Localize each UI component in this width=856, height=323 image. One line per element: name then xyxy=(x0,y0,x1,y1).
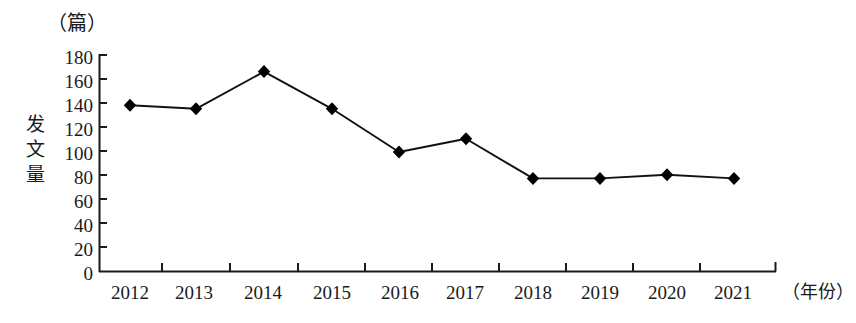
chart-plot-area xyxy=(0,0,856,323)
data-point-2017[interactable] xyxy=(460,132,472,145)
data-point-2016[interactable] xyxy=(393,146,405,159)
x-axis-ticks xyxy=(162,263,700,272)
data-point-2014[interactable] xyxy=(258,65,270,78)
line-chart-figure: （篇） 发 文 量 180 160 140 120 100 80 60 40 2… xyxy=(0,0,856,323)
data-point-markers xyxy=(124,65,740,185)
data-point-2020[interactable] xyxy=(661,168,673,181)
data-point-2015[interactable] xyxy=(326,102,338,115)
data-line-series-fawenliang xyxy=(130,72,734,179)
data-point-2012[interactable] xyxy=(124,99,136,112)
data-point-2021[interactable] xyxy=(728,172,740,185)
data-point-2013[interactable] xyxy=(190,102,202,115)
y-axis-ticks xyxy=(100,79,108,247)
data-point-2019[interactable] xyxy=(594,172,606,185)
data-point-2018[interactable] xyxy=(527,172,539,185)
